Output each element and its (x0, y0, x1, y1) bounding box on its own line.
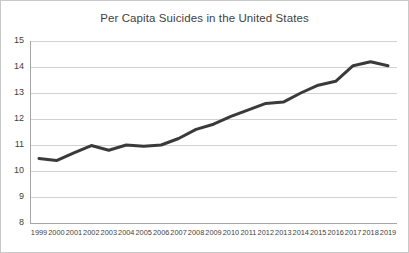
y-axis-tick-label: 8 (19, 217, 24, 227)
x-axis-tick-label: 2001 (66, 228, 82, 237)
y-axis-tick-label: 11 (15, 139, 24, 149)
x-axis-tick-label: 2003 (101, 228, 117, 237)
y-axis-tick-labels: 89101112131415 (14, 35, 24, 227)
x-axis-tick-label: 2005 (135, 228, 151, 237)
x-axis-tick-labels: 1999200020012002200320042005200620072008… (31, 228, 396, 237)
x-axis-tick-label: 1999 (31, 228, 47, 237)
x-axis-tick-label: 2000 (48, 228, 64, 237)
x-axis-tick-label: 2008 (188, 228, 204, 237)
y-axis-tick-label: 9 (19, 191, 24, 201)
y-axis-tick-label: 12 (14, 113, 24, 123)
x-axis-tick-label: 2016 (327, 228, 343, 237)
x-axis-tick-label: 2017 (345, 228, 361, 237)
x-axis-tick-label: 2007 (170, 228, 186, 237)
x-axis-tick-label: 2002 (83, 228, 99, 237)
y-axis-tick-label: 13 (14, 87, 24, 97)
x-axis-tick-label: 2009 (205, 228, 221, 237)
x-axis-tick-label: 2011 (240, 228, 256, 237)
y-axis-tick-label: 14 (14, 61, 24, 71)
line-chart-plot: 89101112131415 1999200020012002200320042… (1, 1, 409, 253)
y-axis-tick-label: 15 (14, 35, 24, 45)
x-axis-tick-label: 2006 (153, 228, 169, 237)
chart-container: Per Capita Suicides in the United States… (0, 0, 409, 253)
x-axis-tick-label: 2018 (362, 228, 378, 237)
x-axis-tick-label: 2010 (223, 228, 239, 237)
x-axis-tick-label: 2012 (258, 228, 274, 237)
y-axis-tick-label: 10 (14, 165, 24, 175)
data-series (39, 62, 388, 161)
x-axis-tick-label: 2013 (275, 228, 291, 237)
x-axis-tick-label: 2004 (118, 228, 134, 237)
x-axis-tick-label: 2015 (310, 228, 326, 237)
series-line-per-capita-suicides (39, 62, 388, 161)
x-axis-tick-label: 2019 (380, 228, 396, 237)
x-axis-tick-label: 2014 (293, 228, 309, 237)
gridlines (30, 41, 397, 223)
